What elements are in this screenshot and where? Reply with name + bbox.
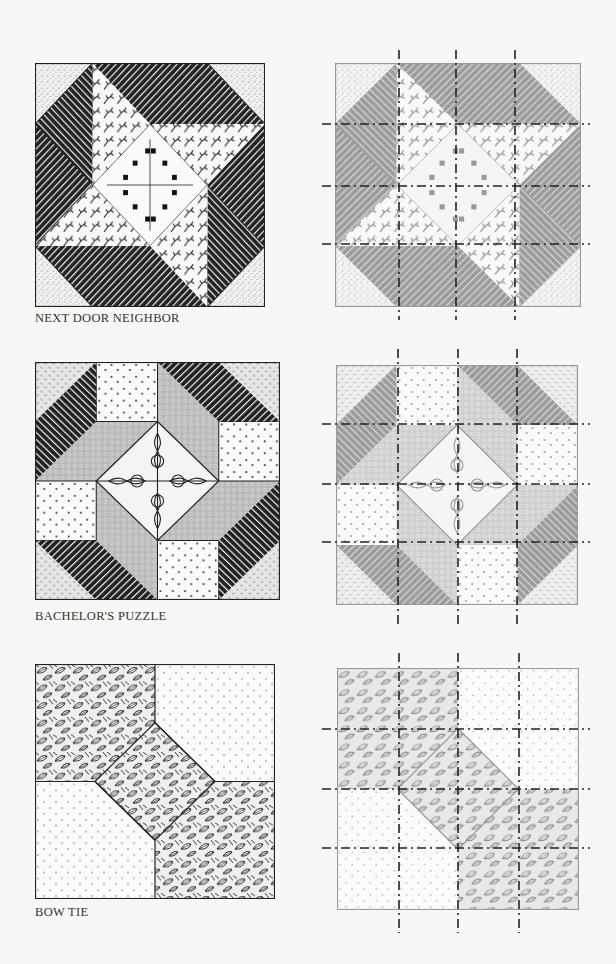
quilt-block-grid-diagram — [322, 40, 592, 320]
next-door-neighbor-block — [35, 63, 265, 307]
quilt-block-grid-diagram — [322, 648, 602, 938]
bow-tie-grid-overlay — [322, 648, 602, 938]
next-door-neighbor-grid-overlay — [322, 40, 592, 320]
quilt-block-illustration — [35, 362, 280, 600]
block-caption: NEXT DOOR NEIGHBOR — [35, 311, 180, 326]
bachelors-puzzle-grid-overlay — [322, 344, 602, 624]
block-caption: BOW TIE — [35, 905, 88, 920]
block-caption: BACHELOR'S PUZZLE — [35, 609, 166, 624]
bachelors-puzzle-block — [35, 362, 280, 600]
bow-tie-block — [35, 664, 275, 899]
quilt-block-illustration — [35, 664, 275, 899]
quilt-block-illustration — [35, 63, 265, 307]
quilt-block-grid-diagram — [322, 344, 602, 624]
